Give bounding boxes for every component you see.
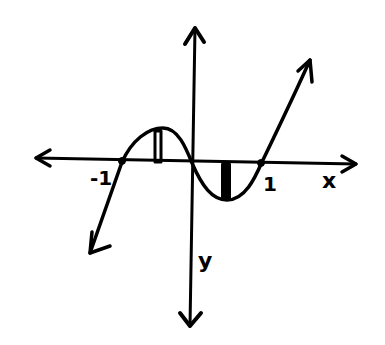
x-axis-label: x bbox=[322, 168, 336, 193]
y-axis bbox=[190, 28, 195, 326]
y-axis-label: y bbox=[198, 248, 212, 273]
cubic-curve bbox=[90, 60, 310, 253]
x-axis bbox=[36, 158, 356, 164]
root-dot-neg1 bbox=[119, 158, 126, 165]
filled-rectangle bbox=[222, 164, 230, 200]
tick-label-1: 1 bbox=[263, 172, 277, 196]
tick-label-neg1: -1 bbox=[90, 166, 112, 190]
root-dot-1 bbox=[258, 160, 265, 167]
outlined-rectangle bbox=[155, 131, 161, 162]
